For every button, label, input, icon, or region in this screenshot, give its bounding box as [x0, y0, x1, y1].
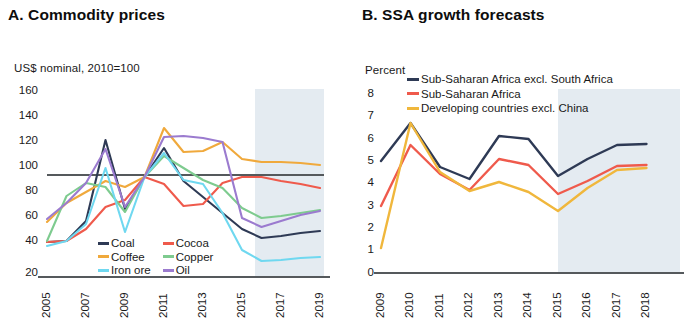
- panel-b-xtick-2013: 2013: [493, 292, 505, 318]
- legend-item-developing-excl-china: Developing countries excl. China: [407, 102, 613, 115]
- panel-a-xtick-2015: 2015: [236, 292, 248, 318]
- panel-b-xtick-2018: 2018: [640, 292, 652, 318]
- legend-label-ssa-excl-south-africa: Sub-Saharan Africa excl. South Africa: [421, 73, 613, 86]
- panel-a-xtick-2009: 2009: [119, 292, 131, 318]
- legend-label-copper: Copper: [176, 251, 214, 264]
- legend-label-oil: Oil: [176, 264, 190, 277]
- figure-container: A. Commodity prices US$ nominal, 2010=10…: [0, 0, 690, 323]
- legend-label-cocoa: Cocoa: [176, 237, 209, 250]
- legend-item-copper: Copper: [163, 251, 214, 264]
- legend-swatch-copper-icon: [163, 255, 174, 258]
- panel-a-forecast-shading: [255, 89, 324, 278]
- panel-a-xtick-2007: 2007: [80, 292, 92, 318]
- panel-b-xtick-2012: 2012: [463, 292, 475, 318]
- legend-label-coffee: Coffee: [111, 251, 145, 264]
- panel-b-xtick-2010: 2010: [404, 292, 416, 318]
- legend-label-iron-ore: Iron ore: [111, 264, 151, 277]
- panel-a-xtick-2013: 2013: [197, 292, 209, 318]
- panel-a-xtick-2019: 2019: [314, 292, 326, 318]
- panel-b-xtick-2014: 2014: [522, 292, 534, 318]
- legend-swatch-cocoa-icon: [163, 242, 174, 245]
- panel-b-xtick-2015: 2015: [552, 292, 564, 318]
- panel-b-xtick-2009: 2009: [375, 292, 387, 318]
- panel-a-xtick-2011: 2011: [158, 293, 170, 318]
- panel-b-xtick-2011: 2011: [434, 293, 446, 318]
- panel-a-legend: Coal Cocoa Coffee Copper Iron ore Oil: [98, 237, 213, 277]
- legend-swatch-developing-excl-china-icon: [407, 107, 419, 110]
- legend-swatch-ssa-excl-south-africa-icon: [407, 78, 419, 81]
- legend-item-coffee: Coffee: [98, 251, 151, 264]
- panel-b-plot: [352, 0, 690, 300]
- panel-a-commodity-prices: A. Commodity prices US$ nominal, 2010=10…: [0, 0, 352, 323]
- panel-b-svg: [352, 0, 690, 300]
- panel-b-forecast-shading: [558, 89, 680, 273]
- legend-label-coal: Coal: [111, 237, 135, 250]
- legend-swatch-ssa-icon: [407, 92, 419, 95]
- legend-swatch-iron-ore-icon: [98, 269, 109, 272]
- panel-b-legend: Sub-Saharan Africa excl. South Africa Su…: [407, 73, 613, 115]
- legend-swatch-coal-icon: [98, 242, 109, 245]
- legend-item-ssa: Sub-Saharan Africa: [407, 88, 613, 101]
- legend-item-iron-ore: Iron ore: [98, 264, 151, 277]
- panel-a-xtick-2017: 2017: [275, 292, 287, 318]
- legend-item-cocoa: Cocoa: [163, 237, 214, 250]
- legend-swatch-coffee-icon: [98, 255, 109, 258]
- legend-label-ssa: Sub-Saharan Africa: [421, 88, 521, 101]
- legend-item-coal: Coal: [98, 237, 151, 250]
- panel-a-xtick-2005: 2005: [41, 292, 53, 318]
- legend-item-oil: Oil: [163, 264, 214, 277]
- legend-label-developing-excl-china: Developing countries excl. China: [421, 102, 588, 115]
- panel-b-ssa-growth-forecasts: B. SSA growth forecasts Percent 8 7 6 5 …: [352, 0, 690, 323]
- panel-b-xtick-2017: 2017: [611, 292, 623, 318]
- panel-b-xtick-2016: 2016: [581, 292, 593, 318]
- legend-swatch-oil-icon: [163, 269, 174, 272]
- legend-item-ssa-excl-south-africa: Sub-Saharan Africa excl. South Africa: [407, 73, 613, 86]
